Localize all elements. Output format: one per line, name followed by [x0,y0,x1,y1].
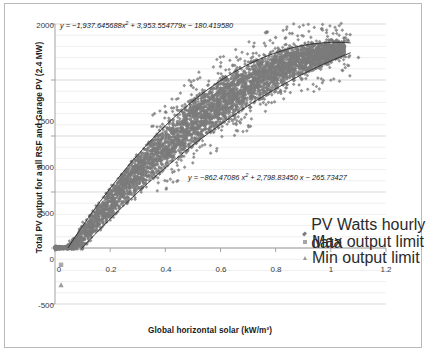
legend-label: Min output limit [312,249,420,267]
triangle-marker-icon [303,256,307,260]
y-tick-label: 500 [20,209,54,218]
square-marker-icon [303,240,307,244]
y-axis-title: Total PV output for a all RSF and Garage… [35,23,44,273]
y-tick-label: 1000 [20,163,54,172]
x-axis-title: Global horizontal solar (kW/m²) [80,326,340,335]
x-tick-label: 0 [42,265,76,274]
y-tick-label: 1500 [20,117,54,126]
x-tick-label: 0.4 [149,265,183,274]
y-tick-label: -500 [20,301,54,310]
max-limit-equation-annotation: y = −1,937.645688x2 + 3,953.554779x − 18… [60,20,233,30]
x-tick-label: 0.6 [204,265,238,274]
legend-item-min-output[interactable]: Min output limit [303,249,420,267]
y-tick-label: 0 [20,255,54,264]
min-limit-equation-annotation: y = −862.47086 x2 + 2,798.83450 x − 265.… [188,172,347,182]
x-tick-label: 0.2 [94,265,128,274]
x-tick-label: 0.8 [259,265,293,274]
y-tick-label: 2000 [20,21,54,30]
